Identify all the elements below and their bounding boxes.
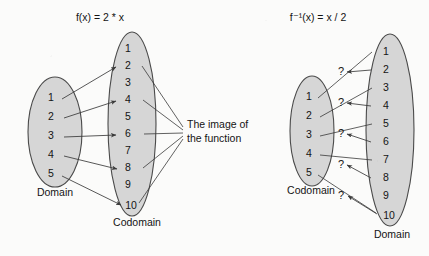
right-codomain-ellipse — [290, 76, 334, 186]
left-codomain-element-6: 6 — [125, 127, 131, 139]
question-mark-1: ? — [338, 65, 344, 77]
left-panel: f(x) = 2 * x 1 2 3 4 5 Domain 1 2 3 4 5 … — [28, 11, 248, 228]
right-domain-element-6: 6 — [383, 135, 389, 147]
right-domain-element-7: 7 — [383, 153, 389, 165]
right-domain-element-8: 8 — [383, 171, 389, 183]
right-domain-element-4: 4 — [383, 99, 389, 111]
question-mark-4: ? — [338, 158, 344, 170]
left-codomain-element-8: 8 — [125, 161, 131, 173]
left-domain-element-1: 1 — [48, 91, 54, 103]
right-line-1 — [318, 52, 372, 98]
right-domain-element-3: 3 — [383, 81, 389, 93]
right-arrow-10-to-5 — [348, 196, 377, 214]
left-codomain-element-1: 1 — [125, 42, 131, 54]
left-codomain-label: Codomain — [113, 216, 161, 228]
left-panel-title: f(x) = 2 * x — [76, 11, 125, 23]
left-codomain-element-3: 3 — [125, 76, 131, 88]
right-panel: f⁻¹(x) = x / 2 1 2 3 4 5 Codomain 1 2 3 … — [287, 11, 414, 240]
left-codomain-element-2: 2 — [125, 59, 131, 71]
function-mapping-diagram: f(x) = 2 * x 1 2 3 4 5 Domain 1 2 3 4 5 … — [0, 0, 429, 256]
left-domain-element-4: 4 — [48, 148, 54, 160]
right-domain-element-2: 2 — [383, 63, 389, 75]
right-codomain-label: Codomain — [287, 184, 335, 196]
left-codomain-element-7: 7 — [125, 144, 131, 156]
right-domain-element-1: 1 — [383, 45, 389, 57]
question-mark-5: ? — [338, 189, 344, 201]
right-codomain-element-4: 4 — [306, 147, 312, 159]
callout-text-line-1: The image of — [187, 118, 248, 130]
right-domain-element-5: 5 — [383, 117, 389, 129]
question-mark-3: ? — [338, 127, 344, 139]
left-codomain-element-10: 10 — [125, 199, 137, 211]
left-domain-element-3: 3 — [48, 129, 54, 141]
right-domain-label: Domain — [374, 228, 410, 240]
left-codomain-element-4: 4 — [125, 93, 131, 105]
right-codomain-element-1: 1 — [306, 90, 312, 102]
callout-text-line-2: the function — [187, 132, 241, 144]
left-codomain-element-9: 9 — [125, 178, 131, 190]
left-domain-label: Domain — [37, 186, 73, 198]
left-domain-ellipse — [28, 77, 82, 187]
right-domain-ellipse — [366, 34, 414, 226]
left-codomain-element-5: 5 — [125, 110, 131, 122]
right-panel-title: f⁻¹(x) = x / 2 — [290, 11, 347, 23]
right-domain-element-9: 9 — [383, 189, 389, 201]
right-domain-element-10: 10 — [383, 209, 395, 221]
right-codomain-element-3: 3 — [306, 128, 312, 140]
left-domain-element-2: 2 — [48, 110, 54, 122]
right-codomain-element-2: 2 — [306, 109, 312, 121]
left-arrow-1-to-2 — [62, 67, 116, 99]
diagram-canvas: f(x) = 2 * x 1 2 3 4 5 Domain 1 2 3 4 5 … — [0, 0, 429, 256]
question-mark-2: ? — [338, 96, 344, 108]
right-codomain-element-5: 5 — [306, 166, 312, 178]
left-domain-element-5: 5 — [48, 167, 54, 179]
